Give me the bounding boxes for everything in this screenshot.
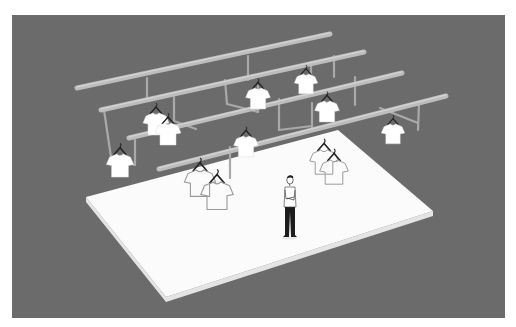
rail-support [418, 103, 419, 130]
store-scene-illustration [0, 0, 516, 327]
illustration-canvas: Isometric illustration: a man standing o… [0, 0, 516, 327]
